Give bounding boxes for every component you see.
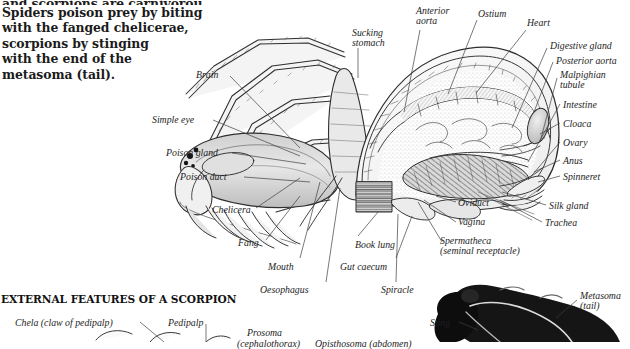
label-prosoma: Prosoma [247, 328, 282, 338]
label-poison-gland: Poison gland [166, 148, 218, 158]
label-brain: Brain [196, 70, 218, 80]
label-spinneret: Spinneret [563, 172, 600, 182]
label-simple-eye: Simple eye [152, 115, 194, 125]
label-prosoma-sub: (cephalothorax) [237, 339, 300, 349]
label-spermatheca: Spermatheca (seminal receptacle) [440, 236, 520, 257]
label-vagina: Vagina [458, 217, 485, 227]
intro-line-5: metasoma (tail). [2, 67, 202, 82]
intro-line-1: Spiders poison prey by biting [2, 5, 202, 20]
label-ostium: Ostium [478, 9, 506, 19]
label-book-lung: Book lung [355, 240, 395, 250]
label-sucking-stomach: Sucking stomach [352, 28, 385, 49]
label-posterior-aorta: Posterior aorta [556, 56, 617, 66]
label-intestine: Intestine [563, 100, 597, 110]
label-spiracle: Spiracle [381, 285, 414, 295]
label-silk-gland: Silk gland [549, 201, 588, 211]
label-digestive-gland: Digestive gland [550, 41, 612, 51]
intro-paragraph: and scorpions are carnivorous. Spiders p… [2, 0, 202, 82]
label-poison-duct: Poison duct [180, 172, 227, 182]
label-pedipalp: Pedipalp [168, 318, 203, 328]
intro-line-4: with the end of the [2, 51, 202, 66]
label-fang: Fang [238, 238, 259, 248]
label-sting: Sting [430, 318, 450, 328]
intro-line-2: with the fanged chelicerae, [2, 20, 202, 35]
section-heading: EXTERNAL FEATURES OF A SCORPION [1, 293, 236, 305]
label-malpighian-tubule: Malpighian tubule [560, 70, 606, 91]
label-gut-caecum: Gut caecum [340, 262, 387, 272]
intro-line-3: scorpions by stinging [2, 36, 202, 51]
label-ovary: Ovary [563, 138, 587, 148]
label-heart: Heart [527, 18, 550, 28]
label-opisthosoma: Opisthosoma (abdomen) [315, 339, 412, 349]
label-mouth: Mouth [268, 262, 294, 272]
label-chela: Chela (claw of pedipalp) [15, 318, 113, 328]
label-metasoma: Metasoma (tail) [580, 291, 621, 312]
label-oesophagus: Oesophagus [260, 285, 308, 295]
label-chelicera: Chelicera [212, 205, 251, 215]
label-anus: Anus [563, 156, 583, 166]
label-trachea: Trachea [545, 218, 577, 228]
label-oviduct: Oviduct [458, 198, 489, 208]
label-cloaca: Cloaca [563, 119, 591, 129]
label-anterior-aorta: Anterior aorta [416, 6, 449, 27]
